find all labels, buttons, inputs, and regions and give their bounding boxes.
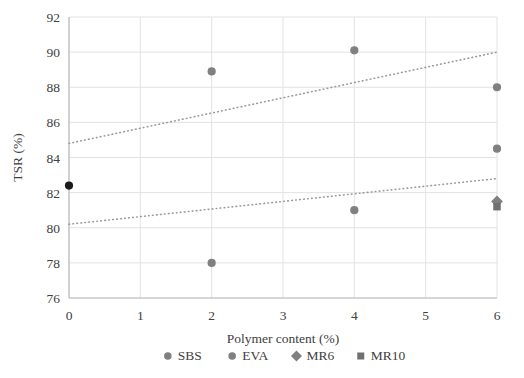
legend-marker-eva [228, 352, 236, 360]
grid-lines [69, 17, 497, 298]
y-tick-label: 80 [47, 221, 61, 236]
legend-marker-mr10 [357, 353, 364, 360]
y-tick-label: 88 [47, 80, 61, 95]
x-tick-label: 3 [280, 308, 287, 323]
chart-legend: SBSEVAMR6MR10 [164, 348, 405, 363]
y-tick-label: 92 [47, 10, 61, 25]
data-point-eva [493, 145, 501, 153]
data-point-eva [350, 206, 358, 214]
x-tick-label: 6 [494, 308, 501, 323]
y-tick-label: 76 [47, 291, 61, 306]
x-axis-title: Polymer content (%) [227, 331, 339, 346]
y-tick-label: 82 [47, 186, 61, 201]
x-tick-label: 1 [137, 308, 144, 323]
data-point-sbs [493, 83, 501, 91]
legend-marker-mr6 [291, 351, 302, 362]
x-tick-label: 4 [351, 308, 358, 323]
y-axis-title: TSR (%) [10, 133, 25, 181]
x-tick-labels: 0123456 [66, 308, 501, 323]
data-points [65, 46, 503, 267]
scatter-chart: 767880828486889092 0123456 TSR (%)Polyme… [0, 0, 524, 378]
y-tick-label: 90 [47, 45, 61, 60]
legend-label: EVA [242, 348, 268, 363]
x-tick-label: 0 [66, 308, 73, 323]
data-point-sbs [350, 46, 358, 54]
chart-canvas: 767880828486889092 0123456 TSR (%)Polyme… [0, 0, 524, 378]
legend-label: MR10 [371, 348, 406, 363]
y-tick-label: 84 [47, 151, 61, 166]
data-point-sbs [208, 67, 216, 75]
y-tick-label: 78 [47, 256, 61, 271]
legend-item-eva[interactable]: EVA [228, 348, 268, 363]
data-point-mr10 [493, 203, 501, 211]
legend-label: SBS [178, 348, 202, 363]
y-tick-labels: 767880828486889092 [47, 10, 61, 306]
y-tick-label: 86 [47, 115, 61, 130]
data-point-eva [208, 259, 216, 267]
legend-label: MR6 [306, 348, 334, 363]
x-tick-label: 2 [208, 308, 215, 323]
legend-item-mr10[interactable]: MR10 [357, 348, 405, 363]
legend-item-mr6[interactable]: MR6 [291, 348, 334, 363]
legend-marker-sbs [164, 352, 172, 360]
x-tick-label: 5 [422, 308, 429, 323]
data-point-sbs [65, 182, 73, 190]
legend-item-sbs[interactable]: SBS [164, 348, 202, 363]
